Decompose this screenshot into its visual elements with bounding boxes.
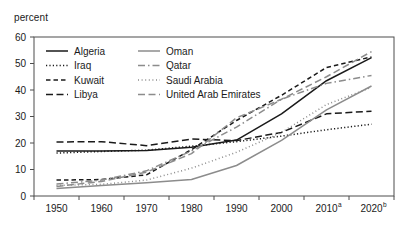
y-axis-tick-label: 0	[20, 191, 26, 202]
legend-label-libya: Libya	[74, 89, 98, 100]
series-lines-group	[57, 52, 372, 189]
y-axis-ticks: 0102030405060	[15, 32, 34, 202]
y-axis-tick-label: 30	[15, 111, 27, 122]
x-axis-ticks: 1950196019701980199020002010a2020b	[34, 196, 394, 214]
legend-label-iraq: Iraq	[74, 60, 91, 71]
y-axis-tick-label: 40	[15, 85, 27, 96]
x-axis-tick-label: 1970	[135, 203, 158, 214]
x-axis-tick-label: 1980	[180, 203, 203, 214]
chart-container: percent 0102030405060 195019601970198019…	[0, 0, 416, 247]
legend-label-qatar: Qatar	[166, 60, 192, 71]
x-axis-tick-label: 2010	[315, 203, 338, 214]
x-axis-tick-label: 1960	[90, 203, 113, 214]
legend-label-kuwait: Kuwait	[74, 75, 104, 86]
legend-label-saudi-arabia: Saudi Arabia	[166, 75, 223, 86]
y-axis-tick-label: 10	[15, 164, 27, 175]
x-axis-tick-superscript: b	[383, 201, 387, 208]
y-axis-tick-label: 50	[15, 58, 27, 69]
x-axis-tick-label: 1990	[225, 203, 248, 214]
line-chart-plot: 0102030405060 19501960197019801990200020…	[0, 0, 416, 247]
legend-label-oman: Oman	[166, 46, 193, 57]
x-axis-tick-label: 2000	[270, 203, 293, 214]
series-line-libya	[57, 111, 372, 145]
y-axis-tick-label: 20	[15, 138, 27, 149]
chart-legend: AlgeriaIraqKuwaitLibyaOmanQatarSaudi Ara…	[46, 46, 261, 101]
x-axis-tick-label: 2020	[360, 203, 383, 214]
series-line-oman	[57, 86, 372, 189]
y-axis-tick-label: 60	[15, 32, 27, 43]
legend-label-algeria: Algeria	[74, 46, 106, 57]
series-line-algeria	[57, 58, 372, 151]
legend-label-united-arab-emirates: United Arab Emirates	[166, 89, 261, 100]
x-axis-tick-label: 1950	[45, 203, 68, 214]
x-axis-tick-superscript: a	[338, 201, 342, 208]
series-line-united-arab-emirates	[57, 52, 372, 187]
